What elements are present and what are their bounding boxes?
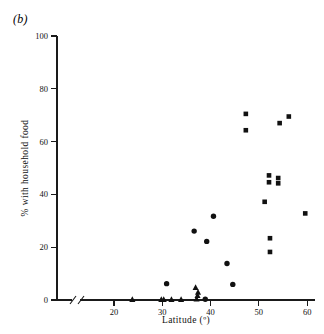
data-point-square (276, 176, 281, 181)
x-tick-label: 60 (303, 307, 312, 317)
data-point-square (267, 173, 272, 178)
data-point-circle (164, 281, 169, 286)
y-tick-label: 100 (35, 31, 48, 41)
y-tick-label: 0 (44, 295, 48, 305)
y-tick-label: 20 (40, 242, 49, 252)
data-point-square (268, 250, 273, 255)
data-point-circle (204, 239, 209, 244)
scatter-plot: 020406080100 2030405060 Latitude (º) % w… (0, 0, 324, 334)
y-tick-label: 60 (40, 137, 49, 147)
data-point-triangle (178, 296, 184, 302)
series-triangle-markers (129, 284, 201, 302)
x-tick-label: 50 (255, 307, 264, 317)
data-point-circle (211, 214, 216, 219)
y-tick-label: 40 (40, 189, 49, 199)
data-point-square (277, 121, 282, 126)
data-point-triangle (193, 284, 199, 290)
y-axis-ticks (51, 36, 57, 300)
x-axis-ticks (114, 300, 307, 306)
y-axis-title: % with household food (20, 120, 30, 217)
data-point-square (262, 199, 267, 204)
data-point-triangle (129, 296, 135, 302)
data-point-square (267, 180, 272, 185)
data-point-square (244, 128, 249, 133)
data-point-square (244, 112, 249, 117)
x-tick-label: 20 (110, 307, 119, 317)
data-point-square (276, 181, 281, 186)
data-point-square (268, 236, 273, 241)
y-tick-label: 80 (40, 84, 49, 94)
data-point-circle (203, 297, 208, 302)
data-point-square (303, 211, 308, 216)
data-point-circle (230, 282, 235, 287)
series-square-markers (244, 112, 308, 255)
y-axis-tick-labels: 020406080100 (35, 31, 48, 305)
x-axis-title: Latitude (º) (162, 315, 210, 326)
data-point-circle (224, 261, 229, 266)
series-circle-markers (164, 214, 236, 302)
data-point-triangle (168, 296, 174, 302)
figure-panel: (b) 020406080100 2030405060 Latitude (º)… (0, 0, 324, 334)
data-point-circle (191, 228, 196, 233)
x-axis-tick-labels: 2030405060 (110, 307, 312, 317)
data-point-square (287, 114, 292, 119)
